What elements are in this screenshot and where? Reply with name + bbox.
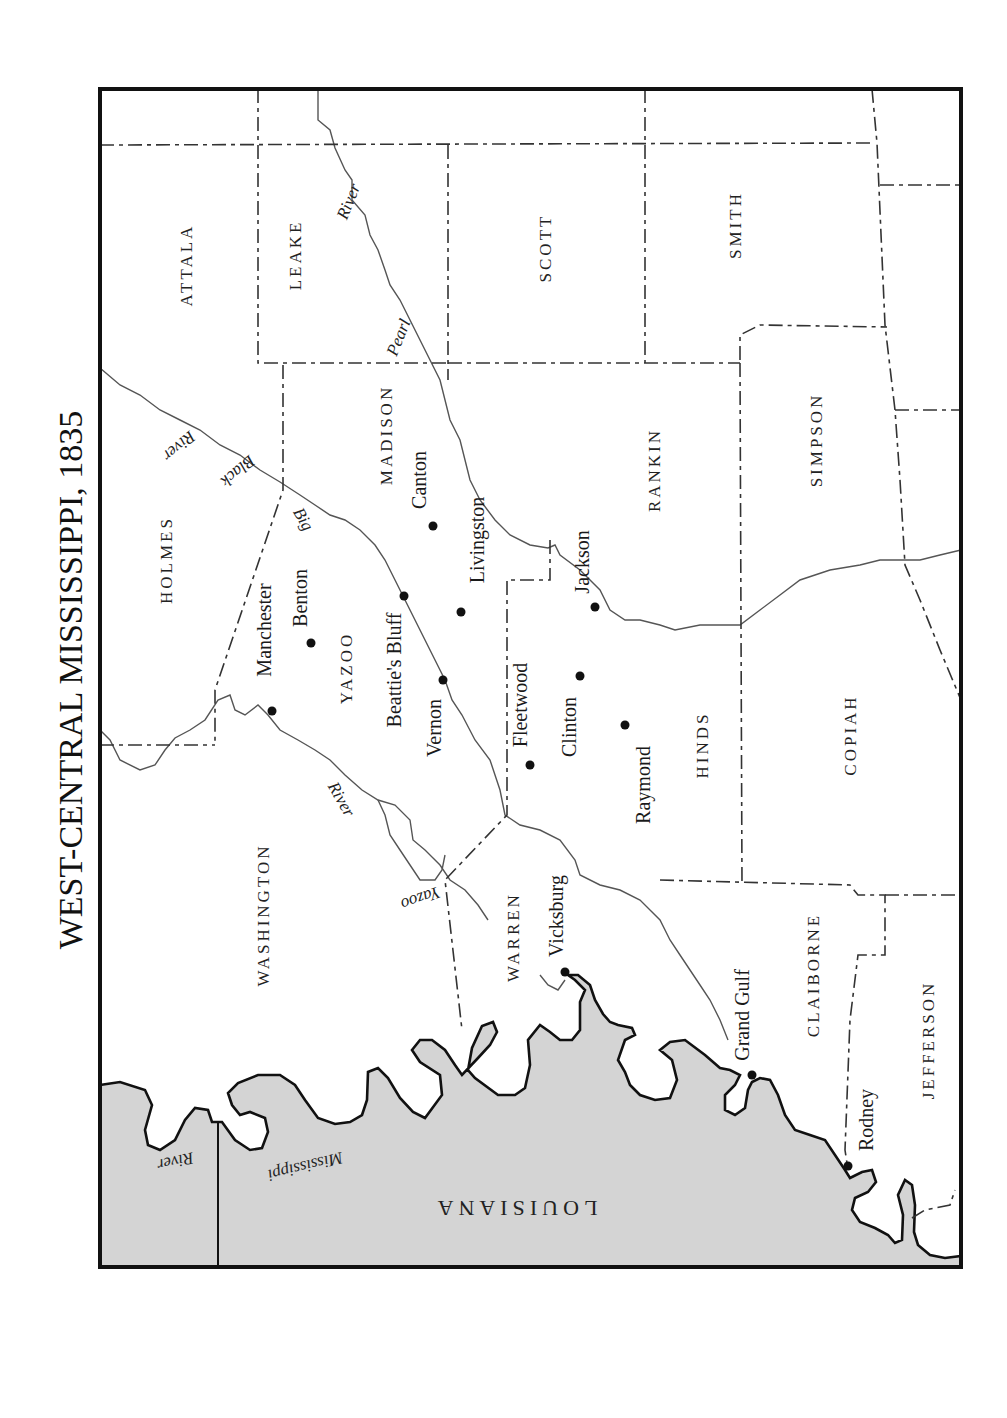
map-title: WEST-CENTRAL MISSISSIPPI, 1835: [52, 411, 89, 950]
county-label-yazoo: YAZOO: [337, 632, 356, 705]
town-marker-icon: [748, 1071, 757, 1080]
county-label-rankin: RANKIN: [645, 428, 664, 512]
town-marker-icon: [561, 968, 570, 977]
county-label-smith: SMITH: [726, 191, 745, 259]
county-label-attala: ATTALA: [177, 224, 196, 307]
county-label-scott: SCOTT: [536, 214, 555, 283]
town-label: Jackson: [571, 530, 593, 593]
county-label-hinds: HINDS: [693, 712, 712, 779]
town-label: Canton: [408, 451, 430, 509]
town-label: Vicksburg: [545, 875, 568, 957]
map: WEST-CENTRAL MISSISSIPPI, 1835 ATTALALEA…: [0, 0, 1007, 1418]
county-label-washington: WASHINGTON: [254, 843, 273, 986]
town-label: Beattie's Bluff: [383, 612, 405, 727]
town-marker-icon: [439, 676, 448, 685]
town-label: Fleetwood: [509, 663, 531, 747]
town-label: Rodney: [855, 1089, 878, 1151]
county-label-holmes: HOLMES: [157, 516, 176, 604]
county-label-jefferson: JEFFERSON: [919, 981, 938, 1100]
county-label-warren: WARREN: [504, 892, 523, 982]
county-label-simpson: SIMPSON: [807, 393, 826, 488]
town-marker-icon: [457, 608, 466, 617]
county-label-madison: MADISON: [377, 385, 396, 485]
state-labels: LOUISIANA: [433, 1196, 598, 1221]
town-marker-icon: [576, 672, 585, 681]
town-label: Clinton: [558, 697, 580, 757]
county-label-copiah: COPIAH: [841, 694, 860, 775]
state-label-louisiana: LOUISIANA: [433, 1196, 598, 1221]
county-label-leake: LEAKE: [286, 220, 305, 291]
town-label: Raymond: [632, 746, 655, 824]
town-marker-icon: [307, 639, 316, 648]
town-marker-icon: [844, 1162, 853, 1171]
town-label: Vernon: [423, 699, 445, 757]
town-label: Grand Gulf: [731, 969, 753, 1061]
town-marker-icon: [400, 592, 409, 601]
town-marker-icon: [526, 761, 535, 770]
town-marker-icon: [591, 603, 600, 612]
town-label: Livingston: [466, 497, 489, 584]
town-label: Benton: [289, 569, 311, 627]
town-marker-icon: [621, 721, 630, 730]
town-marker-icon: [268, 707, 277, 716]
town-label: Manchester: [253, 583, 275, 677]
town-marker-icon: [429, 522, 438, 531]
county-label-claiborne: CLAIBORNE: [804, 913, 823, 1037]
